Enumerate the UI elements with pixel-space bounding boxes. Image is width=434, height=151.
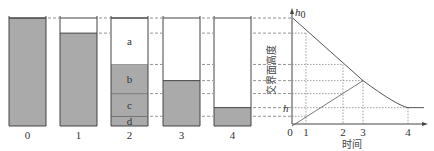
cylinder-label: 0 xyxy=(25,129,31,141)
origin-label: 0 xyxy=(287,126,293,138)
x-tick-labels: 1234 xyxy=(303,126,411,138)
layer xyxy=(60,33,97,126)
x-axis-label: 时间 xyxy=(342,138,362,150)
x-tick-label: 3 xyxy=(360,126,366,138)
cylinder-label: 1 xyxy=(76,129,82,141)
layer-label-d: d xyxy=(127,115,133,127)
layer xyxy=(214,108,251,126)
layer-label-b: b xyxy=(127,73,133,85)
sedimentation-figure: 01dcba234 1234 h0 h 0 时间 交界面高度 xyxy=(0,0,434,151)
h-level-label: h xyxy=(283,102,289,114)
chart-series xyxy=(292,18,424,126)
cylinder-diagram: 01dcba234 xyxy=(9,16,251,141)
layer-label-a: a xyxy=(127,35,132,47)
y-axis-label: 交界面高度 xyxy=(265,45,277,95)
origin-line xyxy=(292,81,363,126)
x-tick-label: 1 xyxy=(303,126,309,138)
x-tick-label: 2 xyxy=(340,126,346,138)
layer xyxy=(163,81,200,126)
x-axis-arrow-icon xyxy=(422,122,428,126)
cylinder-3: 3 xyxy=(163,16,200,141)
layer-label-c: c xyxy=(127,99,132,111)
layer xyxy=(9,18,46,126)
chart-guide-lines xyxy=(292,18,408,124)
cylinder-1: 1 xyxy=(60,16,97,141)
cylinder-0: 0 xyxy=(9,16,46,141)
y-axis-arrow-icon xyxy=(290,8,294,14)
interface-curve xyxy=(293,18,424,108)
cylinder-label: 4 xyxy=(230,129,236,141)
x-tick-label: 4 xyxy=(405,126,411,138)
cylinder-label: 2 xyxy=(127,129,133,141)
cylinder-2: dcba2 xyxy=(111,16,148,141)
cylinder-label: 3 xyxy=(179,129,185,141)
y-top-label: h0 xyxy=(295,6,306,20)
cylinder-4: 4 xyxy=(214,16,251,141)
interface-height-chart: 1234 h0 h 0 时间 交界面高度 xyxy=(265,6,428,150)
